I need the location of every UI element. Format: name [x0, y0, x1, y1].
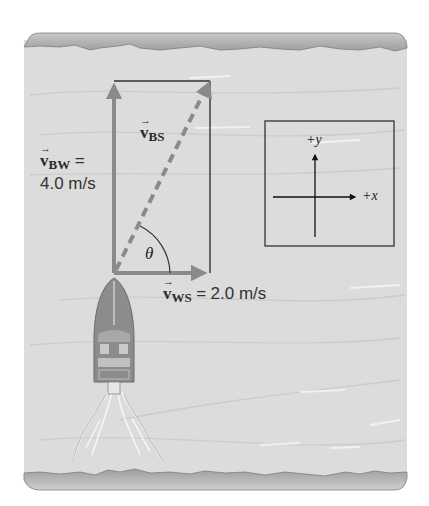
v-bw-label: →vBW =	[40, 151, 85, 173]
v-bs-label: →vBS	[140, 123, 164, 145]
x-axis-label: +x	[362, 188, 378, 204]
y-axis-label: +y	[306, 132, 322, 148]
v-ws-label: →vWS = 2.0 m/s	[163, 284, 266, 306]
v-bw-value: 4.0 m/s	[40, 174, 96, 194]
v-bw-symbol: →vBW	[40, 151, 70, 173]
river-water	[24, 40, 407, 480]
v-ws-symbol: →vWS	[163, 284, 192, 306]
angle-theta-label: θ	[145, 244, 153, 264]
v-bs-symbol: →vBS	[140, 123, 164, 145]
river-boat-vector-diagram	[0, 0, 429, 506]
v-ws-value: 2.0 m/s	[211, 284, 267, 303]
